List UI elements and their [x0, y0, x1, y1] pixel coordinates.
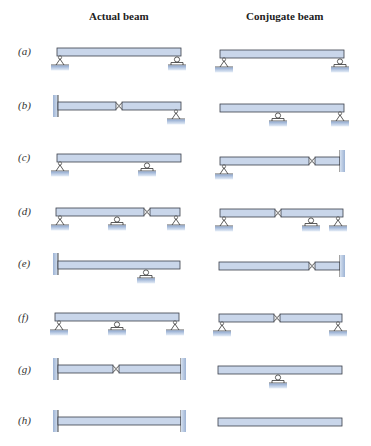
- row-a-actual: [51, 48, 186, 70]
- row-e-conjugate: [219, 255, 345, 277]
- row-d-conjugate: [215, 209, 347, 231]
- row-g-conjugate: [218, 366, 342, 388]
- beam-diagram: [0, 0, 371, 446]
- row-h-actual: [53, 410, 186, 432]
- row-b-actual: [53, 95, 185, 124]
- row-f-conjugate: [213, 314, 347, 336]
- row-a-conjugate: [215, 50, 349, 72]
- row-h-conjugate: [218, 418, 342, 426]
- row-c-actual: [51, 154, 181, 176]
- row-b-conjugate: [220, 104, 349, 126]
- row-e-actual: [53, 253, 180, 283]
- row-c-conjugate: [215, 150, 345, 179]
- row-d-actual: [51, 208, 185, 230]
- row-f-actual: [50, 313, 184, 335]
- row-g-actual: [53, 358, 186, 380]
